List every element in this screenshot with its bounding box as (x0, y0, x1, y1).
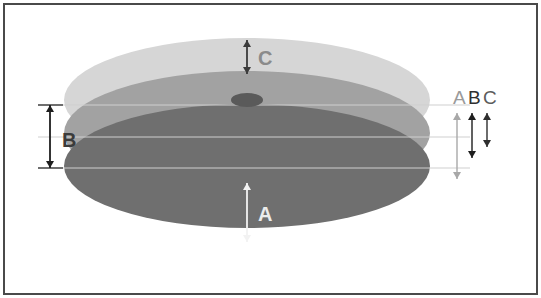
disc-diagram-canvas: CBA ABC (0, 0, 541, 298)
legend-label-c: C (483, 87, 497, 108)
figure-root: CBA ABC Disc cross-section dimension dia… (0, 0, 541, 298)
legend-label-b: B (468, 87, 481, 108)
dim-c-label: C (258, 47, 272, 69)
dim-b-label: B (62, 129, 76, 151)
center-hole-icon (231, 93, 263, 107)
dim-a-label: A (258, 203, 272, 225)
legend-label-a: A (453, 87, 466, 108)
